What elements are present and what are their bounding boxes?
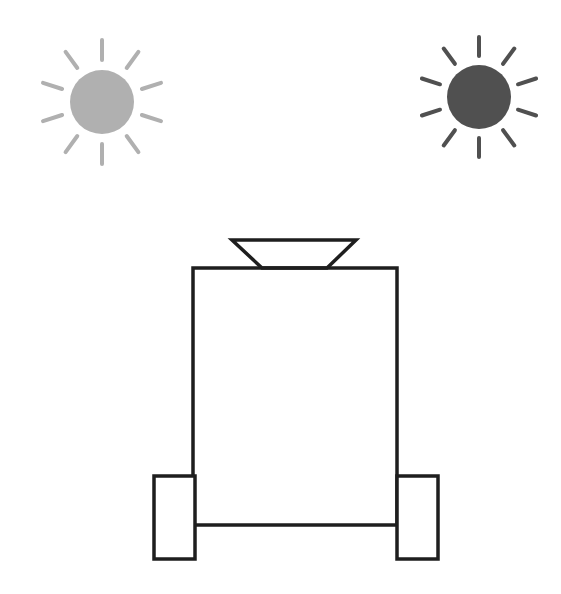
sun-ray-icon xyxy=(518,110,536,116)
sun-disc-icon xyxy=(447,65,511,129)
sun-ray-icon xyxy=(43,83,62,89)
light-sources xyxy=(43,37,536,164)
light-sensor xyxy=(232,240,356,268)
sun-ray-icon xyxy=(503,49,514,64)
bright-light-source xyxy=(422,37,536,157)
sun-ray-icon xyxy=(518,79,536,85)
sun-ray-icon xyxy=(142,83,161,89)
sun-ray-icon xyxy=(127,136,139,152)
sun-ray-icon xyxy=(444,49,455,64)
dim-light-source xyxy=(43,40,161,164)
robot-body xyxy=(193,268,397,525)
sun-ray-icon xyxy=(422,110,440,116)
robot-vehicle xyxy=(154,240,438,559)
sun-ray-icon xyxy=(422,79,440,85)
diagram-canvas xyxy=(0,0,561,594)
sun-ray-icon xyxy=(43,115,62,121)
sun-ray-icon xyxy=(444,130,455,145)
sun-ray-icon xyxy=(503,130,514,145)
sun-ray-icon xyxy=(66,136,78,152)
sun-ray-icon xyxy=(142,115,161,121)
sun-disc-icon xyxy=(70,70,134,134)
sun-ray-icon xyxy=(66,52,78,68)
left-wheel xyxy=(154,476,195,559)
right-wheel xyxy=(397,476,438,559)
sun-ray-icon xyxy=(127,52,139,68)
